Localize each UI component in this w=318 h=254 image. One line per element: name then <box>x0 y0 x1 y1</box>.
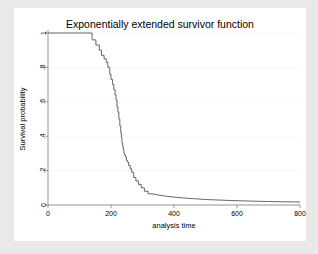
y-tick-label: 0 <box>40 203 47 207</box>
x-tick-label: 600 <box>231 210 243 217</box>
y-tick-label: 1 <box>40 31 47 35</box>
y-tick-label: .4 <box>40 133 47 139</box>
survivor-function-plot: 0200400600800 0.2.4.6.81 analysis time S… <box>14 8 306 241</box>
x-tick-labels: 0200400600800 <box>46 210 306 217</box>
survivor-curve-path <box>48 33 300 202</box>
y-tick-label: .2 <box>40 168 47 174</box>
x-tick-label: 800 <box>294 210 306 217</box>
y-tick-label: .8 <box>40 64 47 70</box>
survivor-curve <box>48 33 300 202</box>
x-tick-label: 200 <box>105 210 117 217</box>
x-axis-title: analysis time <box>152 221 195 230</box>
axes <box>48 30 300 205</box>
y-axis-title: Survival probability <box>18 87 27 150</box>
y-tick-label: .6 <box>40 99 47 105</box>
x-tick-label: 400 <box>168 210 180 217</box>
gridlines <box>48 33 300 205</box>
figure-canvas: Exponentially extended survivor function… <box>14 8 306 241</box>
y-tick-labels: 0.2.4.6.81 <box>40 31 47 207</box>
x-tick-label: 0 <box>46 210 50 217</box>
tick-marks <box>45 33 300 208</box>
